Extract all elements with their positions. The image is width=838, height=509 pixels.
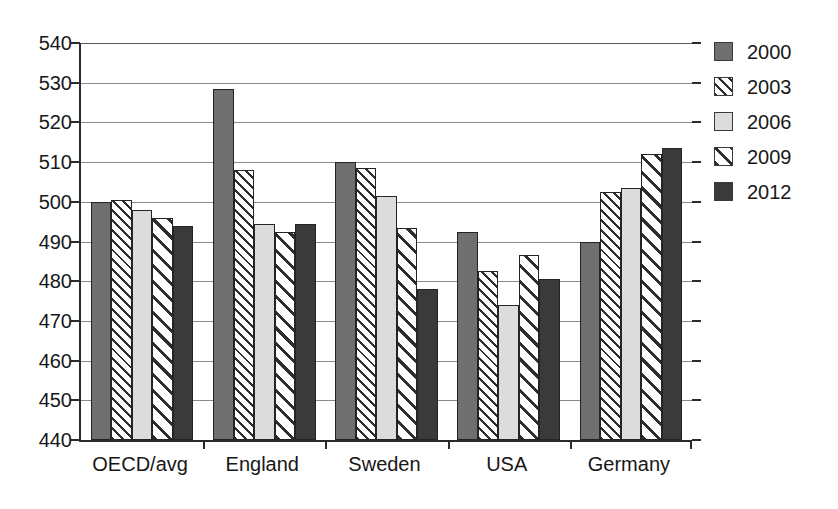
bar-england-2003 [234,170,255,440]
y-axis-tick-mark-right [692,121,701,123]
bar-usa-2000 [457,232,478,440]
y-axis-tick-mark [71,399,80,401]
legend-swatch-icon-2006 [714,112,733,131]
bar-germany-2012 [662,148,683,440]
x-category-label-usa: USA [446,452,568,476]
y-axis-tick-mark-right [692,360,701,362]
bar-england-2000 [213,89,234,440]
legend-item-2006[interactable]: 2006 [714,104,834,139]
y-axis-tick-mark-right [692,399,701,401]
y-tick-label: 470 [24,311,72,331]
bar-oecd-avg-2000 [91,202,112,440]
x-axis-tick-mark [203,440,205,449]
bar-oecd-avg-2006 [132,210,153,440]
legend-swatch-icon-2003 [714,77,733,96]
y-axis-tick-mark-right [692,42,701,44]
y-tick-label: 440 [24,430,72,450]
bar-germany-2006 [621,188,642,440]
plot-area [79,43,692,442]
bar-usa-2009 [519,255,540,440]
legend-item-2000[interactable]: 2000 [714,34,834,69]
bar-chart: 540530520510500490480470460450440 OECD/a… [0,0,838,509]
x-axis-category-labels: OECD/avgEnglandSwedenUSAGermany [79,452,690,484]
y-tick-label: 490 [24,232,72,252]
y-tick-label: 520 [24,112,72,132]
y-tick-label: 480 [24,271,72,291]
y-axis-tick-mark-right [692,280,701,282]
bars-layer [81,43,692,440]
bar-oecd-avg-2012 [173,226,194,440]
bar-sweden-2009 [397,228,418,440]
bar-oecd-avg-2003 [111,200,132,440]
y-tick-label: 450 [24,390,72,410]
y-axis-tick-mark [71,320,80,322]
y-tick-label: 460 [24,351,72,371]
y-axis-tick-mark-right [692,161,701,163]
bar-england-2009 [275,232,296,440]
legend-label: 2000 [747,42,792,62]
y-axis-tick-mark [71,439,80,441]
y-axis-tick-mark-right [692,241,701,243]
legend: 20002003200620092012 [714,34,834,209]
legend-swatch-icon-2012 [714,182,733,201]
y-tick-label: 500 [24,192,72,212]
y-axis-tick-labels: 540530520510500490480470460450440 [20,0,72,509]
bar-usa-2003 [478,271,499,440]
legend-swatch-icon-2009 [714,147,733,166]
bar-england-2012 [295,224,316,440]
x-category-label-germany: Germany [568,452,690,476]
x-axis-tick-mark [325,440,327,449]
bar-germany-2000 [580,242,601,441]
y-tick-label: 530 [24,73,72,93]
bar-germany-2003 [600,192,621,440]
y-axis-tick-mark [71,121,80,123]
bar-sweden-2000 [335,162,356,440]
x-category-label-sweden: Sweden [323,452,445,476]
x-category-label-oecd-avg: OECD/avg [79,452,201,476]
bar-sweden-2012 [417,289,438,440]
y-axis-tick-mark-right [692,439,701,441]
legend-label: 2009 [747,147,792,167]
bar-usa-2012 [539,279,560,440]
y-axis-tick-mark [71,280,80,282]
legend-item-2003[interactable]: 2003 [714,69,834,104]
x-axis-tick-mark [448,440,450,449]
y-axis-tick-mark-right [692,82,701,84]
legend-label: 2006 [747,112,792,132]
legend-swatch-icon-2000 [714,42,733,61]
bar-usa-2006 [498,305,519,440]
y-axis-tick-mark [71,42,80,44]
bar-oecd-avg-2009 [152,218,173,440]
legend-label: 2012 [747,182,792,202]
x-axis-tick-mark [570,440,572,449]
y-axis-tick-mark-right [692,320,701,322]
bar-germany-2009 [641,154,662,440]
bar-sweden-2006 [376,196,397,440]
legend-item-2012[interactable]: 2012 [714,174,834,209]
legend-item-2009[interactable]: 2009 [714,139,834,174]
y-axis-tick-mark [71,360,80,362]
bar-england-2006 [254,224,275,440]
y-axis-tick-mark-right [692,201,701,203]
legend-label: 2003 [747,77,792,97]
y-axis-tick-mark [71,201,80,203]
x-axis-tick-mark-end [690,440,692,449]
y-axis-tick-mark [71,161,80,163]
x-category-label-england: England [201,452,323,476]
y-tick-label: 510 [24,152,72,172]
y-tick-label: 540 [24,33,72,53]
bar-sweden-2003 [356,168,377,440]
y-axis-tick-mark [71,241,80,243]
y-axis-tick-mark [71,82,80,84]
